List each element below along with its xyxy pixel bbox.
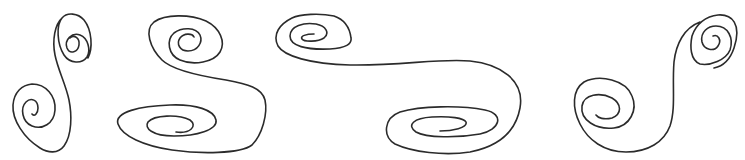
spiral-canvas [0,0,745,160]
spiral-drawing [0,0,745,160]
spiral-ornament-4 [574,15,736,152]
spiral-ornament-2 [118,16,266,153]
spiral-ornament-3 [276,14,521,153]
spiral-ornament-1 [13,14,91,152]
